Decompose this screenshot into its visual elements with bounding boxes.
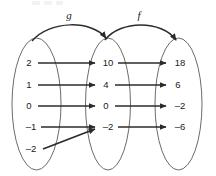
function-label-g: g — [66, 9, 72, 21]
domain-value-4: –2 — [26, 143, 37, 154]
arrow-g-neg2-to-neg2 — [43, 129, 95, 149]
domain-value-2: 0 — [26, 100, 31, 111]
mapping-diagram-canvas: g f 2 1 0 –1 –2 10 4 0 –2 18 6 –2 –6 — [0, 0, 216, 176]
domain-value-0: 2 — [26, 57, 31, 68]
range-value-0: 18 — [175, 57, 186, 68]
domain-oval — [12, 38, 61, 170]
middle-value-0: 10 — [103, 57, 114, 68]
mapping-diagram: g f 2 1 0 –1 –2 10 4 0 –2 18 6 –2 –6 — [0, 0, 216, 176]
range-value-1: 6 — [175, 79, 180, 90]
range-value-2: –2 — [175, 100, 186, 111]
middle-value-1: 4 — [103, 79, 108, 90]
middle-value-3: –2 — [103, 121, 114, 132]
domain-value-1: 1 — [26, 79, 31, 90]
scan-artifact — [32, 1, 63, 5]
domain-value-3: –1 — [26, 121, 37, 132]
range-value-3: –6 — [175, 121, 186, 132]
middle-value-2: 0 — [103, 100, 108, 111]
function-label-f: f — [137, 9, 142, 21]
function-arc-f — [105, 25, 176, 40]
function-arc-g — [32, 25, 106, 41]
